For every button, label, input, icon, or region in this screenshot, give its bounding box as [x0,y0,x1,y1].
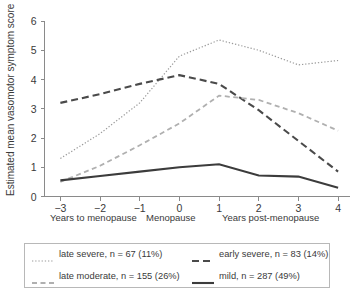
x-axis-ticks: −3−2−101234 [54,197,341,214]
legend-swatch-late-severe-icon [32,251,54,259]
vasomotor-symptom-line-chart: Estimated mean vasomotor symptom score 0… [0,0,356,232]
y-axis-ticks: 0123456 [31,15,45,203]
chart-legend: late severe, n = 67 (11%)early severe, n… [24,243,330,288]
legend-item-early-severe: early severe, n = 83 (14%) [185,244,331,266]
y-tick-label: 6 [31,15,37,27]
y-tick-label: 3 [31,103,37,115]
y-tick-label: 4 [31,74,37,86]
y-axis-label: Estimated mean vasomotor symptom score [5,3,16,196]
legend-swatch-early-severe-icon [192,251,214,259]
legend-label-early-severe: early severe, n = 83 (14%) [219,250,328,259]
y-tick-label: 1 [31,161,37,173]
data-series-group [60,40,338,188]
figure-container: Estimated mean vasomotor symptom score 0… [0,0,356,300]
y-tick-label: 0 [31,191,37,203]
legend-swatch-mild-icon [192,273,214,281]
legend-label-mild: mild, n = 287 (49%) [219,272,300,281]
x-axis-caption-left: Years to menopause [50,212,137,223]
x-axis-caption-center: Menopause [146,212,196,223]
chart-plot-area: Estimated mean vasomotor symptom score 0… [0,0,356,232]
x-axis-caption-right: Years post-menopause [222,212,319,223]
legend-label-late-severe: late severe, n = 67 (11%) [59,250,162,259]
series-line-early-severe [60,75,338,172]
legend-label-late-moderate: late moderate, n = 155 (26%) [59,272,180,281]
y-tick-label: 5 [31,44,37,56]
legend-item-mild: mild, n = 287 (49%) [185,266,331,288]
x-tick-label: 4 [335,202,341,214]
series-line-mild [60,164,338,187]
y-tick-label: 2 [31,132,37,144]
legend-item-late-severe: late severe, n = 67 (11%) [25,244,185,266]
legend-swatch-late-moderate-icon [32,273,54,281]
legend-item-late-moderate: late moderate, n = 155 (26%) [25,266,185,288]
